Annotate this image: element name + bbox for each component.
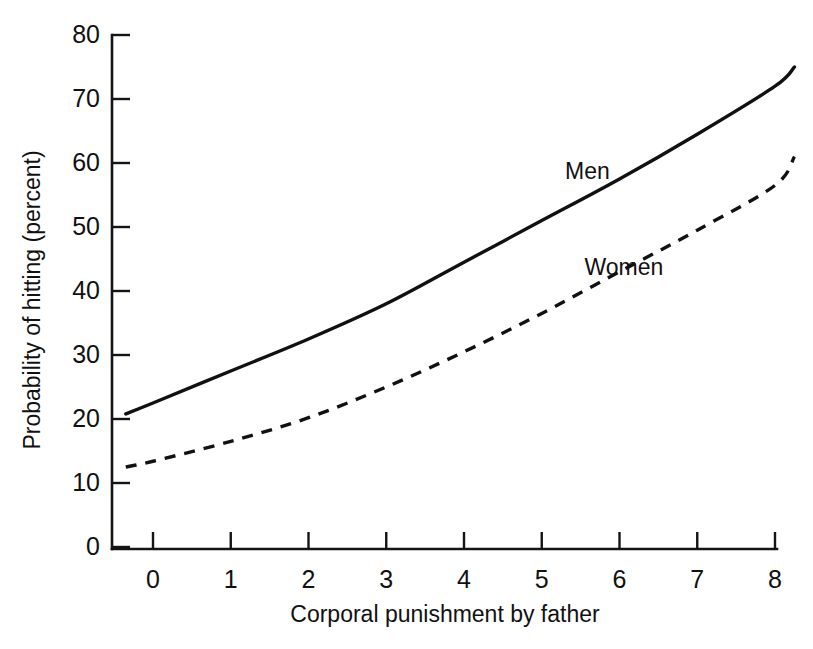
line-chart: 01020304050607080 Probability of hitting… [0,0,813,649]
y-axis-title: Probability of hitting (percent) [19,150,45,449]
y-tick-label: 30 [72,340,100,368]
y-tick-label: 70 [72,84,100,112]
x-tick-label: 2 [302,565,316,593]
x-tick-label: 5 [535,565,549,593]
y-tick-label: 10 [72,468,100,496]
y-tick-label: 80 [72,20,100,48]
x-tick-label: 4 [457,565,471,593]
x-tick-label: 0 [146,565,160,593]
x-tick-label: 7 [690,565,704,593]
y-tick-label: 50 [72,212,100,240]
y-tick-label: 60 [72,148,100,176]
series-label-women: Women [585,254,664,280]
y-axis-tick-labels: 01020304050607080 [72,20,100,560]
x-tick-label: 3 [379,565,393,593]
y-tick-label: 0 [86,532,100,560]
x-tick-label: 8 [768,565,782,593]
chart-figure: 01020304050607080 Probability of hitting… [0,0,813,649]
x-tick-label: 6 [613,565,627,593]
chart-background [0,0,813,649]
x-tick-label: 1 [224,565,238,593]
series-label-men: Men [565,158,610,184]
y-tick-label: 20 [72,404,100,432]
x-axis-title: Corporal punishment by father [290,601,600,627]
y-tick-label: 40 [72,276,100,304]
